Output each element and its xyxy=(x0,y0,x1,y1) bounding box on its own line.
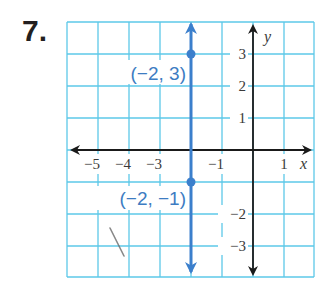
coordinate-plane: −5 −4 −3 −1 1 x 3 2 1 −2 −3 y (−2, 3) (−… xyxy=(0,0,328,286)
y-tick-label: −3 xyxy=(230,238,246,254)
y-tick-label: 3 xyxy=(239,46,247,62)
point-label: (−2, −1) xyxy=(119,188,186,209)
x-tick-label: −1 xyxy=(208,156,224,172)
point-marker xyxy=(187,50,196,59)
point-marker xyxy=(187,178,196,187)
x-tick-label: −5 xyxy=(84,156,100,172)
y-tick-label: −2 xyxy=(230,206,246,222)
y-tick-label: 2 xyxy=(239,78,247,94)
x-tick-label: −3 xyxy=(146,156,162,172)
y-tick-label: 1 xyxy=(239,110,247,126)
x-tick-label: 1 xyxy=(280,156,288,172)
point-label: (−2, 3) xyxy=(131,63,186,84)
x-axis-label: x xyxy=(299,155,307,172)
y-axis-label: y xyxy=(262,28,272,46)
pencil-mark xyxy=(110,228,124,256)
x-tick-label: −4 xyxy=(115,156,131,172)
